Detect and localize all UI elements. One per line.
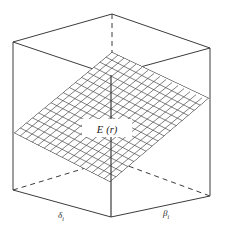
axis-label-right: βi — [162, 208, 169, 220]
surface-label-paren-close: ) — [113, 124, 118, 136]
axis-label-right-subscript: i — [167, 214, 169, 220]
axis-label-left-group: δi — [58, 210, 64, 222]
box-edge-bottom-front-right — [111, 196, 210, 217]
surface-label-group: E(r) — [82, 119, 132, 137]
box-edge-top-back-left — [13, 14, 112, 42]
axis-label-right-group: βi — [162, 208, 169, 220]
surface-label: E(r) — [96, 124, 118, 136]
axis-label-left-subscript: i — [62, 216, 64, 222]
figure-container: E(r) δi βi — [0, 0, 226, 236]
surface-diagram: E(r) δi βi — [0, 0, 226, 236]
surface-label-symbol: E — [96, 124, 104, 135]
box-edge-top-back-right — [112, 14, 210, 48]
axis-label-left: δi — [58, 210, 64, 222]
